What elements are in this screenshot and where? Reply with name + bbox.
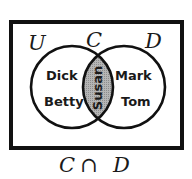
member-mark: Mark <box>115 68 152 83</box>
set-d-label: D <box>144 29 162 53</box>
universe-label: U <box>28 31 47 55</box>
intersection-symbol: ∩ <box>80 153 98 177</box>
member-betty: Betty <box>44 94 84 109</box>
member-dick: Dick <box>46 68 78 83</box>
caption-left-set: C <box>59 153 75 177</box>
venn-diagram: U C D Dick Betty Mark Tom Susan C ∩ D <box>0 0 192 179</box>
caption-right-set: D <box>112 153 130 177</box>
member-tom: Tom <box>121 94 151 109</box>
set-c-label: C <box>86 28 102 52</box>
member-susan: Susan <box>90 66 105 110</box>
